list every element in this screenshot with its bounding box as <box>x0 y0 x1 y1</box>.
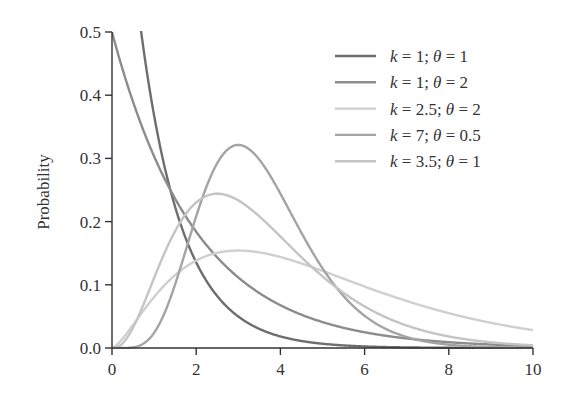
y-tick-label: 0.0 <box>80 339 101 358</box>
legend-label: k = 1; θ = 2 <box>390 73 468 92</box>
y-tick-label: 0.4 <box>80 86 102 105</box>
x-tick-label: 8 <box>445 360 454 379</box>
legend-item-3: k = 2.5; θ = 2 <box>335 100 481 119</box>
legend-item-1: k = 1; θ = 1 <box>335 47 468 66</box>
legend-item-5: k = 3.5; θ = 1 <box>335 152 481 171</box>
legend-item-2: k = 1; θ = 2 <box>335 73 468 92</box>
legend-label: k = 3.5; θ = 1 <box>390 152 481 171</box>
x-tick-label: 2 <box>192 360 201 379</box>
y-tick-label: 0.1 <box>80 276 101 295</box>
x-tick-label: 6 <box>360 360 369 379</box>
axes: 02468100.00.10.20.30.40.5 <box>80 23 542 379</box>
y-tick-label: 0.2 <box>80 213 101 232</box>
series-line-2 <box>112 32 533 346</box>
legend-label: k = 2.5; θ = 2 <box>390 100 481 119</box>
y-tick-label: 0.3 <box>80 149 101 168</box>
x-tick-label: 10 <box>525 360 542 379</box>
x-tick-label: 0 <box>108 360 117 379</box>
y-axis-title: Probability <box>34 154 53 230</box>
gamma-distribution-chart: 02468100.00.10.20.30.40.5 Probability k … <box>0 0 567 402</box>
legend: k = 1; θ = 1k = 1; θ = 2k = 2.5; θ = 2k … <box>335 47 481 171</box>
legend-label: k = 7; θ = 0.5 <box>390 126 481 145</box>
y-tick-label: 0.5 <box>80 23 101 42</box>
series-line-1 <box>112 0 533 348</box>
legend-item-4: k = 7; θ = 0.5 <box>335 126 481 145</box>
curves-group <box>112 0 533 348</box>
series-line-3 <box>112 251 533 348</box>
x-tick-label: 4 <box>276 360 285 379</box>
legend-label: k = 1; θ = 1 <box>390 47 468 66</box>
